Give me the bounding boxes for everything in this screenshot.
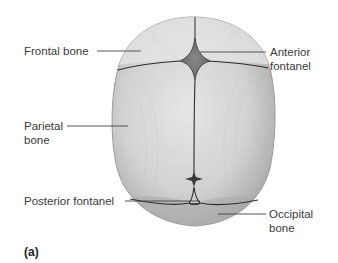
- parietal-bone-text-2: bone: [24, 133, 63, 147]
- frontal-bone-label: Frontal bone: [24, 44, 89, 58]
- anterior-fontanel-text-1: Anterior: [270, 45, 311, 59]
- frontal-bone-text: Frontal bone: [24, 45, 89, 57]
- posterior-fontanel-label: Posterior fontanel: [24, 194, 114, 208]
- occipital-bone-text-2: bone: [269, 221, 313, 235]
- occipital-bone-label: Occipital bone: [269, 207, 313, 235]
- panel-label: (a): [24, 245, 39, 259]
- parietal-bone-label: Parietal bone: [24, 119, 63, 147]
- posterior-fontanel-text: Posterior fontanel: [24, 195, 114, 207]
- occipital-bone-text-1: Occipital: [269, 207, 313, 221]
- parietal-bone-text-1: Parietal: [24, 119, 63, 133]
- anterior-fontanel-text-2: fontanel: [270, 59, 311, 73]
- skull: [110, 10, 280, 240]
- anterior-fontanel-label: Anterior fontanel: [270, 45, 311, 73]
